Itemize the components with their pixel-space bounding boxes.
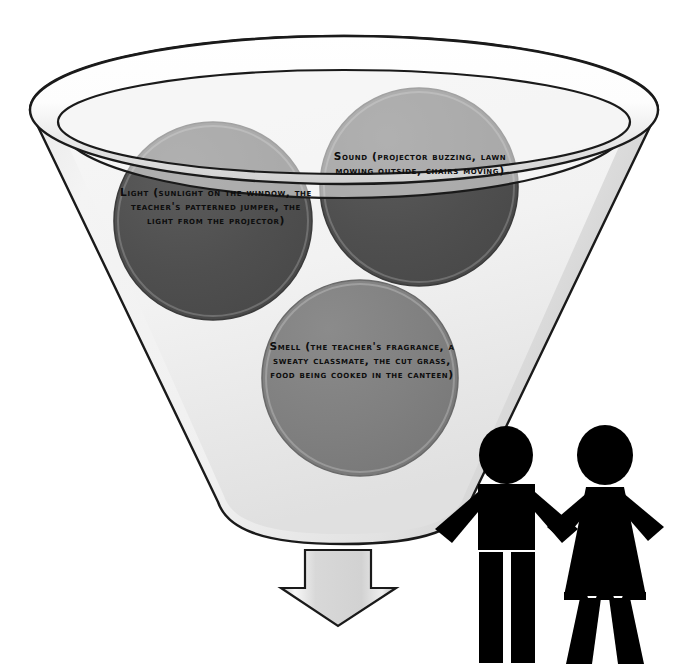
female-figure [547, 425, 664, 664]
smell-circle[interactable] [262, 280, 458, 476]
down-arrow [281, 550, 396, 626]
diagram-canvas: Light (sunlight on the window, the teach… [0, 0, 688, 664]
funnel-diagram-svg [0, 0, 688, 664]
